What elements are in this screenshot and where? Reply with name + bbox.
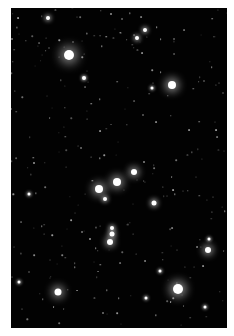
- faint-star: [100, 264, 101, 265]
- star: [95, 185, 103, 193]
- star: [168, 81, 176, 89]
- faint-star: [155, 121, 157, 123]
- faint-star: [72, 41, 74, 43]
- faint-star: [160, 38, 162, 40]
- faint-star: [59, 132, 60, 133]
- faint-star: [223, 150, 224, 151]
- faint-star: [90, 157, 91, 158]
- faint-star: [65, 257, 66, 258]
- faint-star: [216, 136, 218, 138]
- faint-star: [141, 52, 143, 54]
- faint-star: [64, 126, 65, 127]
- faint-star: [190, 277, 191, 278]
- faint-star: [122, 252, 123, 253]
- faint-star: [201, 34, 202, 35]
- faint-star: [100, 225, 101, 226]
- faint-star: [40, 60, 42, 62]
- faint-star: [79, 16, 81, 18]
- faint-star: [201, 158, 202, 159]
- faint-star: [41, 16, 43, 18]
- faint-star: [124, 108, 125, 109]
- faint-star: [59, 40, 60, 41]
- faint-star: [84, 86, 86, 88]
- faint-star: [76, 17, 77, 18]
- faint-star: [118, 297, 120, 299]
- faint-star: [129, 13, 130, 14]
- faint-star: [167, 95, 168, 96]
- faint-star: [152, 173, 153, 174]
- faint-star: [53, 306, 55, 308]
- faint-star: [99, 98, 101, 100]
- faint-star: [211, 18, 213, 20]
- star: [110, 226, 114, 230]
- faint-star: [16, 27, 17, 28]
- faint-star: [64, 136, 65, 137]
- faint-star: [82, 56, 83, 57]
- star: [145, 297, 148, 300]
- faint-star: [198, 81, 200, 83]
- faint-star: [217, 10, 218, 11]
- star: [18, 281, 21, 284]
- star: [64, 50, 74, 60]
- faint-star: [49, 278, 50, 279]
- faint-star: [78, 145, 79, 146]
- faint-star: [187, 190, 188, 191]
- faint-star: [19, 34, 20, 35]
- star: [131, 169, 137, 175]
- star: [151, 87, 154, 90]
- faint-star: [123, 190, 124, 191]
- faint-star: [95, 227, 96, 228]
- faint-star: [44, 187, 46, 189]
- faint-star: [63, 308, 65, 310]
- faint-star: [163, 196, 165, 198]
- star: [135, 36, 139, 40]
- faint-star: [171, 245, 172, 246]
- faint-star: [34, 255, 36, 257]
- faint-star: [11, 72, 12, 74]
- faint-star: [223, 250, 225, 252]
- faint-star: [59, 152, 60, 153]
- faint-star: [106, 128, 107, 129]
- faint-star: [30, 174, 31, 175]
- faint-star: [191, 152, 192, 153]
- faint-star: [64, 107, 65, 108]
- faint-star: [47, 96, 48, 97]
- faint-star: [116, 312, 118, 314]
- faint-star: [183, 29, 185, 31]
- faint-star: [71, 118, 72, 119]
- faint-star: [33, 157, 34, 158]
- faint-star: [133, 47, 134, 48]
- faint-star: [62, 245, 63, 246]
- faint-star: [211, 66, 213, 68]
- faint-star: [181, 325, 182, 326]
- faint-star: [182, 191, 183, 192]
- faint-star: [144, 260, 146, 262]
- faint-star: [172, 190, 174, 192]
- faint-star: [148, 93, 150, 95]
- faint-star: [75, 213, 76, 214]
- faint-star: [188, 129, 190, 131]
- faint-star: [106, 36, 108, 38]
- faint-star: [199, 77, 201, 79]
- faint-star: [27, 167, 29, 169]
- faint-star: [14, 90, 15, 91]
- faint-star: [189, 317, 191, 319]
- faint-star: [177, 249, 178, 250]
- faint-star: [85, 193, 86, 194]
- faint-star: [153, 167, 155, 169]
- faint-star: [219, 83, 220, 84]
- faint-star: [66, 228, 67, 229]
- faint-star: [193, 266, 194, 267]
- faint-star: [48, 47, 50, 49]
- faint-star: [173, 41, 174, 42]
- faint-star: [20, 253, 21, 254]
- faint-star: [155, 315, 156, 316]
- faint-star: [108, 250, 109, 251]
- faint-star: [86, 33, 87, 34]
- star: [82, 76, 86, 80]
- faint-star: [174, 194, 175, 195]
- faint-star: [113, 37, 114, 38]
- faint-star: [21, 308, 22, 309]
- faint-star: [226, 12, 227, 13]
- faint-star: [97, 250, 99, 252]
